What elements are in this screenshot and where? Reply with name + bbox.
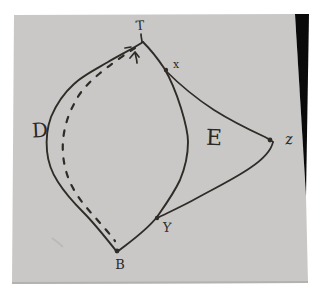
paper-sheet — [12, 14, 308, 284]
paper-bottom-edge — [12, 282, 308, 283]
apex-tick — [141, 34, 142, 42]
label-e: E — [206, 125, 223, 151]
label-d: D — [31, 118, 48, 143]
label-x: x — [173, 58, 180, 71]
point-x-dot — [164, 68, 168, 72]
point-b-dot — [115, 249, 120, 254]
diagram-canvas: T x D E z Y B — [0, 0, 322, 298]
photo-of-hand-drawn-diagram: T x D E z Y B — [0, 0, 322, 298]
label-b: B — [115, 257, 125, 272]
point-z-dot — [268, 138, 273, 143]
label-t: T — [135, 18, 145, 34]
label-y: Y — [161, 220, 172, 236]
point-y-dot — [155, 216, 159, 220]
